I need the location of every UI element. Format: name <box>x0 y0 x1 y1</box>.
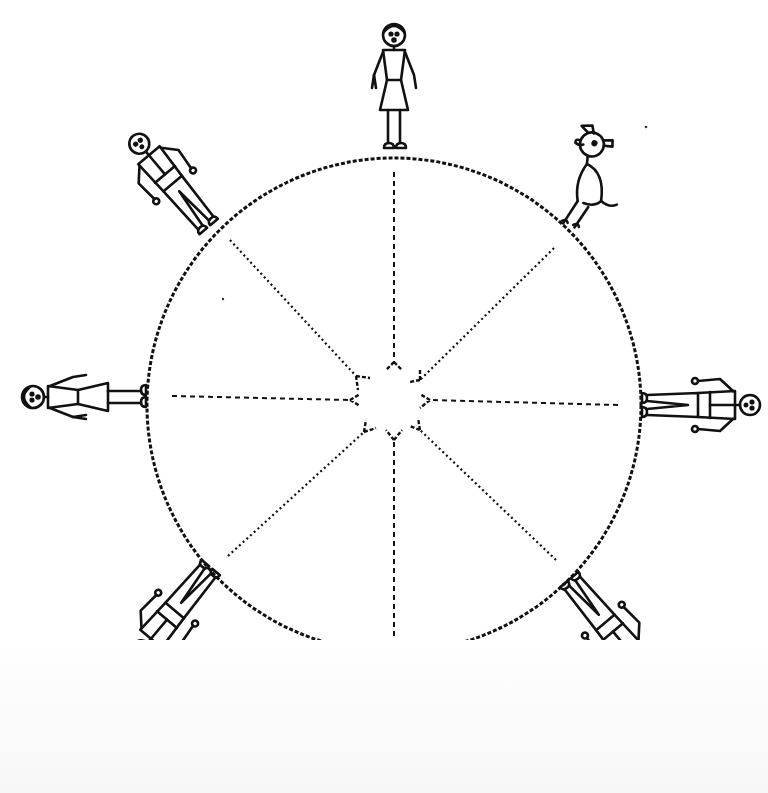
figure-top-left-man <box>112 119 229 244</box>
gravity-arrows <box>172 172 618 636</box>
figures <box>22 24 760 778</box>
gravity-diagram <box>0 0 768 793</box>
arrow-from-top-left <box>230 240 356 376</box>
figure-right-man <box>642 378 760 432</box>
figure-bottom-right-man <box>549 562 666 687</box>
figure-top-girl <box>372 24 416 148</box>
arrow-from-left <box>172 396 350 400</box>
figure-bottom-left-man <box>114 550 231 675</box>
scan-speck <box>645 126 648 129</box>
figure-left-girl <box>22 375 146 419</box>
arrow-from-top-right <box>420 248 554 380</box>
arrow-from-bottom-right <box>420 430 556 560</box>
diagram-canvas <box>0 0 768 793</box>
center-burst-icon <box>350 362 430 440</box>
figure-bottom-man <box>361 660 415 778</box>
scan-speck <box>222 298 224 300</box>
arrow-from-bottom-left <box>228 432 364 556</box>
arrow-from-right <box>430 400 618 405</box>
figure-top-right-dog <box>548 122 640 239</box>
